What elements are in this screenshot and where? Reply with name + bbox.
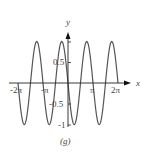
figure-caption: (g)	[60, 136, 71, 146]
y-tick-label-neg05: -0.5	[49, 99, 64, 109]
function-plot: x y 0.5 -0.5 -1 -2π -π π 2π (g)	[0, 0, 149, 156]
x-tick-label-negpi: -π	[41, 85, 49, 95]
x-tick-label-2pi: 2π	[111, 85, 121, 95]
x-tick-label-neg2pi: -2π	[10, 85, 22, 95]
x-axis-label: x	[135, 78, 140, 88]
y-tick-label-05: 0.5	[53, 57, 65, 67]
x-tick-label-pi: π	[90, 85, 95, 95]
y-axis-arrow-icon	[66, 32, 71, 39]
y-axis-label: y	[65, 17, 70, 27]
y-tick-label-neg1: -1	[58, 120, 66, 130]
x-axis-arrow-icon	[124, 81, 131, 86]
